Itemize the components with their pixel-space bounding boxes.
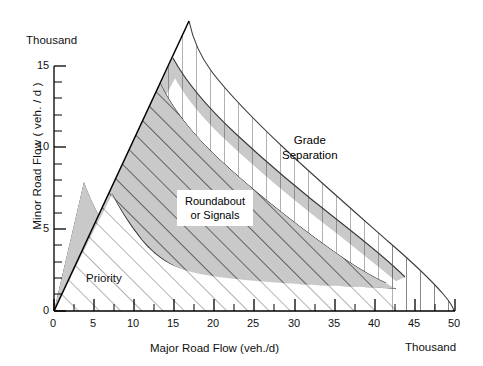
chart-canvas [0, 0, 483, 366]
region-label-grade-line2: Separation [282, 148, 338, 163]
region-label-grade-separation: Grade Separation [282, 133, 338, 163]
x-tick-label-35: 35 [328, 317, 340, 329]
region-label-roundabout-line1: Roundabout [185, 194, 245, 208]
region-label-priority: Priority [86, 271, 122, 285]
region-label-roundabout-or-signals: Roundabout or Signals [177, 190, 253, 226]
x-tick-label-5: 5 [90, 317, 96, 329]
region-label-roundabout-line2: or Signals [185, 208, 245, 222]
x-tick-label-40: 40 [368, 317, 380, 329]
x-axis-title: Major Road Flow (veh./d) [150, 342, 279, 354]
y-axis-title: Minor Road Flow ( veh. / d ) [31, 71, 43, 241]
y-tick-label-10: 10 [37, 140, 49, 152]
x-tick-label-10: 10 [127, 317, 139, 329]
x-tick-label-25: 25 [247, 317, 259, 329]
x-tick-label-0: 0 [50, 317, 56, 329]
x-tick-label-50: 50 [448, 317, 460, 329]
y-tick-label-5: 5 [43, 222, 49, 234]
y-tick-label-15: 15 [37, 59, 49, 71]
x-tick-label-30: 30 [288, 317, 300, 329]
chart-figure: Thousand Minor Road Flow ( veh. / d ) 15… [0, 0, 483, 366]
region-grade-separation-hatch-right [390, 180, 470, 320]
x-tick-label-20: 20 [207, 317, 219, 329]
x-axis-unit-note: Thousand [405, 341, 456, 353]
y-tick-label-0: 0 [43, 304, 49, 316]
y-axis-unit-note: Thousand [26, 34, 77, 46]
region-label-grade-line1: Grade [282, 133, 338, 148]
x-tick-label-15: 15 [167, 317, 179, 329]
x-tick-label-45: 45 [408, 317, 420, 329]
